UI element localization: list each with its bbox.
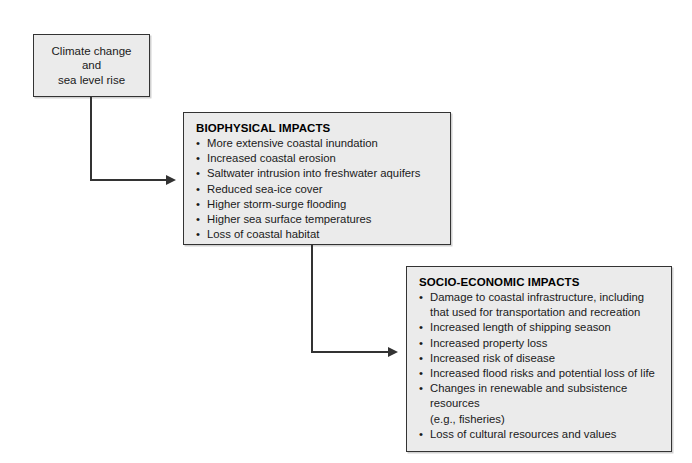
flowchart-canvas: Climate change and sea level rise BIOPHY… xyxy=(0,0,692,463)
bullet-icon: • xyxy=(196,227,200,242)
connector-2-vertical-segment xyxy=(311,245,313,353)
list-item-text: Increased risk of disease xyxy=(430,352,555,364)
list-item: •Increased coastal erosion xyxy=(194,151,440,166)
bullet-icon: • xyxy=(196,212,200,227)
list-item-text: Increased coastal erosion xyxy=(207,152,336,164)
bullet-icon: • xyxy=(419,290,423,305)
bullet-icon: • xyxy=(419,366,423,381)
bullet-icon: • xyxy=(419,427,423,442)
bullet-icon: • xyxy=(196,151,200,166)
list-item-text: Loss of coastal habitat xyxy=(207,228,319,240)
biophysical-impacts-list: •More extensive coastal inundation •Incr… xyxy=(194,136,440,242)
list-item-text: Increased length of shipping season xyxy=(430,321,611,333)
list-item: •Increased property loss xyxy=(417,336,661,351)
list-item: •More extensive coastal inundation xyxy=(194,136,440,151)
source-line-3: sea level rise xyxy=(58,74,125,86)
list-item: •Increased length of shipping season xyxy=(417,320,661,335)
list-item: •Damage to coastal infrastructure, inclu… xyxy=(417,290,661,320)
bullet-icon: • xyxy=(196,136,200,151)
connector-1-vertical-segment xyxy=(90,97,92,181)
list-item: •Increased risk of disease xyxy=(417,351,661,366)
source-line-1: Climate change xyxy=(52,45,132,57)
bullet-icon: • xyxy=(196,182,200,197)
list-item-continuation: (e.g., fisheries) xyxy=(430,412,661,427)
list-item-text: Higher storm-surge flooding xyxy=(207,198,346,210)
list-item-text: Saltwater intrusion into freshwater aqui… xyxy=(207,167,421,179)
list-item-text: More extensive coastal inundation xyxy=(207,137,378,149)
connector-1-horizontal-segment xyxy=(90,179,168,181)
list-item: •Higher storm-surge flooding xyxy=(194,197,440,212)
list-item: •Reduced sea-ice cover xyxy=(194,182,440,197)
list-item: •Loss of coastal habitat xyxy=(194,227,440,242)
list-item-text: Damage to coastal infrastructure, includ… xyxy=(430,291,644,303)
list-item: •Changes in renewable and subsistence re… xyxy=(417,381,661,427)
source-line-2: and xyxy=(82,59,101,71)
list-item-text: Reduced sea-ice cover xyxy=(207,183,323,195)
connector-2-arrowhead-icon xyxy=(388,347,398,357)
list-item-text: Higher sea surface temperatures xyxy=(207,213,372,225)
bullet-icon: • xyxy=(196,166,200,181)
source-box-text: Climate change and sea level rise xyxy=(52,44,132,88)
bullet-icon: • xyxy=(419,381,423,396)
list-item: •Higher sea surface temperatures xyxy=(194,212,440,227)
list-item-text: Loss of cultural resources and values xyxy=(430,428,617,440)
node-biophysical-impacts[interactable]: BIOPHYSICAL IMPACTS •More extensive coas… xyxy=(183,112,451,245)
node-socioeconomic-impacts[interactable]: SOCIO-ECONOMIC IMPACTS •Damage to coasta… xyxy=(406,266,672,452)
connector-1-arrowhead-icon xyxy=(166,175,176,185)
connector-2-horizontal-segment xyxy=(311,351,390,353)
bullet-icon: • xyxy=(419,351,423,366)
list-item: •Increased flood risks and potential los… xyxy=(417,366,661,381)
list-item-text: Changes in renewable and subsistence res… xyxy=(430,382,627,409)
biophysical-heading: BIOPHYSICAL IMPACTS xyxy=(196,122,440,134)
list-item: •Loss of cultural resources and values xyxy=(417,427,661,442)
bullet-icon: • xyxy=(196,197,200,212)
list-item-continuation: that used for transportation and recreat… xyxy=(430,305,661,320)
socioeconomic-impacts-list: •Damage to coastal infrastructure, inclu… xyxy=(417,290,661,442)
socioeconomic-heading: SOCIO-ECONOMIC IMPACTS xyxy=(419,276,661,288)
bullet-icon: • xyxy=(419,320,423,335)
list-item-text: Increased property loss xyxy=(430,337,547,349)
bullet-icon: • xyxy=(419,336,423,351)
node-climate-change-sea-level-rise[interactable]: Climate change and sea level rise xyxy=(33,34,150,97)
list-item: •Saltwater intrusion into freshwater aqu… xyxy=(194,166,440,181)
list-item-text: Increased flood risks and potential loss… xyxy=(430,367,655,379)
